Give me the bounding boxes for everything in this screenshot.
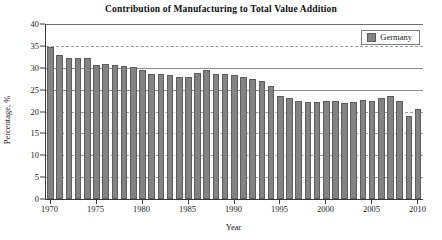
y-tick-label: 0 [35, 195, 39, 204]
bar-slot [101, 24, 110, 199]
bar-slot [386, 24, 395, 199]
bar [112, 65, 119, 199]
y-axis-label: Percentage, % [2, 55, 12, 185]
bar-slot [395, 24, 404, 199]
legend-label-germany: Germany [380, 33, 412, 42]
bar [158, 74, 165, 199]
chart-title: Contribution of Manufacturing to Total V… [0, 4, 442, 14]
bar [323, 101, 330, 199]
legend-swatch-germany [367, 33, 376, 42]
bar-slot [368, 24, 377, 199]
bar-slot [83, 24, 92, 199]
bar-slot [404, 24, 413, 199]
bar [396, 101, 403, 199]
bar-slot [377, 24, 386, 199]
bar-slot [331, 24, 340, 199]
bar-slot [414, 24, 423, 199]
bar [213, 74, 220, 199]
bar-slot [193, 24, 202, 199]
x-tick-label: 2010 [409, 205, 426, 214]
bar [102, 64, 109, 199]
bar [378, 98, 385, 200]
bar [406, 116, 413, 199]
bar-series-germany [46, 24, 423, 199]
bar [387, 96, 394, 199]
bar-slot [156, 24, 165, 199]
bar-slot [358, 24, 367, 199]
bar [139, 70, 146, 199]
x-tick-label: 1980 [133, 205, 150, 214]
bar [176, 77, 183, 200]
bar-slot [349, 24, 358, 199]
x-tick-label: 2005 [363, 205, 380, 214]
bar [148, 74, 155, 199]
y-tick-label: 35 [31, 42, 40, 51]
bar-slot [184, 24, 193, 199]
bar-slot [276, 24, 285, 199]
bar-slot [92, 24, 101, 199]
bar [295, 101, 302, 199]
bar [249, 79, 256, 199]
y-tick-label: 30 [31, 64, 40, 73]
bar-slot [257, 24, 266, 199]
bar-slot [303, 24, 312, 199]
y-tick-label: 20 [31, 107, 40, 116]
bar [369, 101, 376, 199]
bar [121, 66, 128, 199]
bar [277, 96, 284, 199]
y-tick-label: 5 [35, 173, 39, 182]
bar [360, 100, 367, 199]
x-tick-label: 1995 [271, 205, 288, 214]
bar [203, 70, 210, 199]
bar-slot [129, 24, 138, 199]
bar [130, 67, 137, 199]
bar [314, 102, 321, 199]
bar-slot [211, 24, 220, 199]
bar [84, 58, 91, 199]
chart-figure: Contribution of Manufacturing to Total V… [0, 0, 442, 240]
bar-slot [322, 24, 331, 199]
bar-slot [221, 24, 230, 199]
bar-slot [294, 24, 303, 199]
bar [268, 86, 275, 199]
bar-slot [239, 24, 248, 199]
bar-slot [138, 24, 147, 199]
bar-slot [248, 24, 257, 199]
legend: Germany [361, 30, 420, 45]
x-tick-label: 1975 [87, 205, 104, 214]
y-tick-label: 25 [31, 85, 40, 94]
bar-slot [267, 24, 276, 199]
bar-slot [312, 24, 321, 199]
bar-slot [202, 24, 211, 199]
bar [222, 74, 229, 199]
bar-slot [165, 24, 174, 199]
bar-slot [147, 24, 156, 199]
plot-area [45, 24, 423, 200]
bar-slot [110, 24, 119, 199]
bar [56, 55, 63, 199]
bar [332, 101, 339, 199]
bar-slot [64, 24, 73, 199]
bar-slot [175, 24, 184, 199]
bar-slot [74, 24, 83, 199]
bar [167, 75, 174, 199]
bar [415, 109, 422, 199]
bar [305, 102, 312, 199]
y-tick-label: 40 [31, 20, 40, 29]
bar-slot [285, 24, 294, 199]
bar [231, 75, 238, 199]
bar [194, 73, 201, 199]
bar-slot [230, 24, 239, 199]
bar [93, 65, 100, 199]
x-tick-label: 1970 [41, 205, 58, 214]
bar [240, 77, 247, 199]
bar [286, 98, 293, 199]
bar [75, 58, 82, 199]
bar-slot [120, 24, 129, 199]
bar [341, 103, 348, 199]
x-tick-label: 1990 [225, 205, 242, 214]
bar [66, 58, 73, 199]
y-tick-label: 15 [31, 129, 40, 138]
y-tick-label: 10 [31, 151, 40, 160]
bar [259, 81, 266, 199]
